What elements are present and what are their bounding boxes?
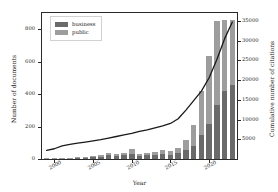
bar-column	[199, 91, 205, 159]
bar-segment-public	[90, 156, 96, 157]
bar-segment-public	[137, 154, 143, 156]
bar-segment-public	[114, 154, 120, 156]
secondary-y-axis-tick	[238, 60, 241, 61]
bar-segment-public	[160, 150, 166, 154]
bar-segment-public	[230, 20, 236, 85]
bar-segment-business	[183, 150, 189, 159]
bar-column	[152, 152, 158, 159]
y-axis-tick	[38, 94, 41, 95]
bar-segment-business	[144, 155, 150, 159]
y-axis-tick	[38, 62, 41, 63]
bar-segment-business	[106, 155, 112, 159]
bar-segment-business	[67, 158, 73, 159]
bar-column	[191, 125, 197, 159]
bar-segment-business	[168, 155, 174, 159]
bar-segment-business	[83, 157, 89, 159]
secondary-y-axis-tick-label: 35000	[242, 18, 259, 23]
bar-segment-public	[83, 157, 89, 158]
bar-segment-business	[129, 154, 135, 160]
y-axis-tick	[38, 29, 41, 30]
secondary-y-axis-tick-label: 5000	[242, 137, 255, 142]
bar-segment-public	[75, 157, 81, 158]
bar-segment-public	[175, 148, 181, 153]
bar-column	[67, 158, 73, 159]
secondary-y-axis-tick-label: 30000	[242, 38, 259, 43]
legend-item: business	[55, 21, 96, 28]
bar-segment-public	[222, 20, 228, 91]
bar-segment-public	[191, 125, 197, 146]
secondary-y-axis-tick	[238, 41, 241, 42]
secondary-y-axis-tick-label: 25000	[242, 58, 259, 63]
x-axis-label: Year	[41, 180, 238, 186]
y-axis-tick-label: 200	[25, 124, 35, 129]
bar-segment-public	[129, 149, 135, 153]
bar-column	[175, 148, 181, 159]
bar-column	[59, 158, 65, 159]
y-axis-tick	[38, 127, 41, 128]
bar-column	[106, 153, 112, 159]
bar-segment-public	[144, 153, 150, 156]
bar-segment-public	[214, 21, 220, 105]
y-axis-tick	[38, 159, 41, 160]
bar-column	[114, 154, 120, 159]
bar-column	[52, 158, 58, 159]
bar-segment-business	[222, 91, 228, 159]
bar-segment-business	[75, 158, 81, 159]
x-axis-tick-label: 2020	[203, 160, 217, 171]
bar-segment-business	[199, 135, 205, 159]
x-axis-tick-label: 2010	[126, 160, 140, 171]
bar-segment-business	[175, 153, 181, 159]
bar-segment-public	[98, 155, 104, 156]
citations-documents-chart: 0200400600800500010000150002000025000300…	[0, 0, 278, 192]
secondary-y-axis-tick-label: 10000	[242, 117, 259, 122]
legend-label: business	[72, 22, 96, 27]
bar-column	[83, 157, 89, 159]
bar-segment-public	[106, 153, 112, 155]
y-axis-tick-label: 400	[25, 92, 35, 97]
bar-segment-business	[98, 157, 104, 159]
y-axis-tick-label: 600	[25, 59, 35, 64]
bar-segment-public	[168, 151, 174, 155]
bar-column	[44, 158, 50, 159]
bar-segment-business	[152, 155, 158, 159]
x-axis-tick-label: 2015	[165, 160, 179, 171]
legend-label: public	[72, 30, 89, 35]
x-axis-tick-label: 2005	[87, 160, 101, 171]
bar-column	[121, 153, 127, 159]
secondary-y-axis-tick	[238, 80, 241, 81]
bar-segment-public	[183, 140, 189, 150]
secondary-y-axis-tick-label: 20000	[242, 77, 259, 82]
bar-column	[75, 157, 81, 159]
bar-column	[144, 153, 150, 159]
y-axis-label: Number of documents	[11, 49, 17, 129]
bar-column	[222, 20, 228, 159]
bar-column	[206, 56, 212, 159]
x-axis-tick-label: 2000	[49, 160, 63, 171]
legend-swatch-public	[55, 30, 68, 35]
bar-segment-public	[152, 152, 158, 155]
bar-segment-public	[199, 91, 205, 135]
bar-segment-business	[121, 155, 127, 159]
bar-column	[129, 149, 135, 159]
bar-column	[137, 154, 143, 160]
bar-segment-business	[160, 154, 166, 159]
secondary-y-axis-label: Cumulative number of citations	[269, 41, 275, 137]
secondary-y-axis-tick-label: 15000	[242, 97, 259, 102]
chart-legend: businesspublic	[50, 16, 102, 41]
bar-segment-public	[121, 153, 127, 155]
bar-segment-business	[214, 105, 220, 159]
bar-column	[98, 155, 104, 159]
secondary-y-axis-tick	[238, 139, 241, 140]
secondary-y-axis-tick	[238, 100, 241, 101]
bar-segment-business	[137, 156, 143, 159]
secondary-y-axis-tick	[238, 21, 241, 22]
bar-column	[230, 20, 236, 159]
y-axis-tick-label: 0	[32, 156, 35, 161]
bar-segment-business	[230, 85, 236, 159]
bar-segment-business	[191, 146, 197, 159]
bar-segment-business	[52, 158, 58, 159]
bar-segment-business	[90, 157, 96, 159]
bar-column	[183, 140, 189, 159]
bar-segment-public	[206, 56, 212, 124]
bar-column	[214, 21, 220, 159]
